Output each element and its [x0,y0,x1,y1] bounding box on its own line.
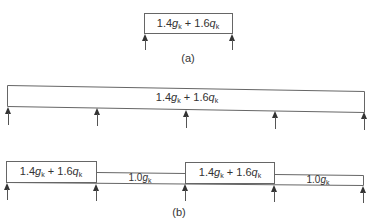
load-label-span-2: 1.0gk [129,172,152,184]
load-label-span-1: 1.4gk + 1.6qk [20,165,82,178]
load-label-span-3: 1.4gk + 1.6qk [199,166,261,179]
caption-b: (b) [172,206,185,218]
load-label-span-4: 1.0gk [307,174,330,186]
